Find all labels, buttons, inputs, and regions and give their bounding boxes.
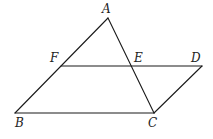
label-C: C (148, 116, 157, 130)
label-A: A (101, 2, 111, 16)
label-F: F (49, 51, 59, 65)
segments-group (15, 18, 202, 113)
label-D: D (190, 51, 201, 65)
label-B: B (14, 116, 24, 130)
geometry-diagram: A B C D E F (0, 0, 213, 139)
segment-CD (154, 66, 202, 113)
label-E: E (133, 51, 143, 65)
